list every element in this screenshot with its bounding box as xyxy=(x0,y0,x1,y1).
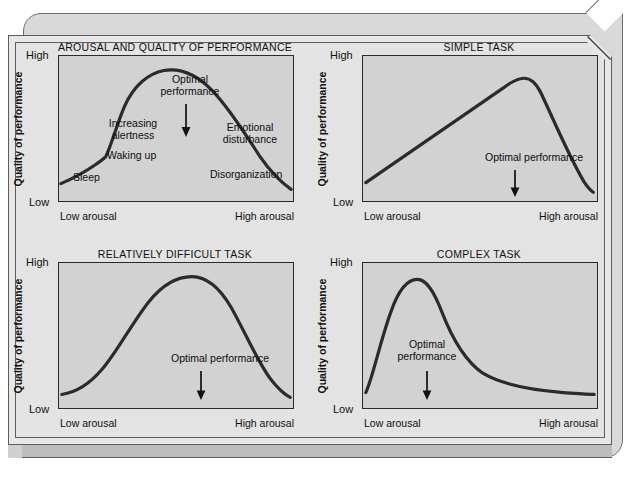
x-tick-high: High arousal xyxy=(539,417,598,429)
panel-title: RELATIVELY DIFFICULT TASK xyxy=(14,248,302,260)
plot-area: Optimal performance xyxy=(362,262,598,409)
arrow-down-icon xyxy=(420,371,434,401)
y-axis-label-text: Quality of performance xyxy=(316,278,328,393)
arrow-down-icon xyxy=(194,371,208,401)
x-tick-low: Low arousal xyxy=(60,210,117,222)
x-tick-high: High arousal xyxy=(235,417,294,429)
annotation-optimal-performance: Optimal performance xyxy=(155,353,285,365)
performance-curve xyxy=(366,279,594,394)
y-tick-high: High xyxy=(26,49,49,61)
y-tick-high: High xyxy=(330,49,353,61)
y-tick-low: Low xyxy=(333,196,353,208)
annotation-disorganization: Disorganization xyxy=(210,169,306,181)
y-tick-low: Low xyxy=(29,403,49,415)
y-tick-low: Low xyxy=(333,403,353,415)
x-tick-low: Low arousal xyxy=(60,417,117,429)
arrow-down-icon xyxy=(508,170,522,198)
card-back-corner-bevel xyxy=(586,0,623,31)
x-tick-low: Low arousal xyxy=(364,210,421,222)
annotation-optimal-performance: Optimal performance xyxy=(383,339,471,363)
curve-svg xyxy=(363,56,597,201)
figure-root: AROUSAL AND QUALITY OF PERFORMANCE Quali… xyxy=(0,0,634,481)
panel-title: AROUSAL AND QUALITY OF PERFORMANCE xyxy=(14,41,302,53)
performance-curve xyxy=(62,277,290,398)
plot-area: Optimal performance xyxy=(362,55,598,202)
panel-complex-task: COMPLEX TASK Quality of performance High… xyxy=(318,248,606,439)
y-tick-high: High xyxy=(330,256,353,268)
annotation-waking-up: Waking up xyxy=(107,150,191,162)
curve-svg xyxy=(363,263,597,408)
y-tick-high: High xyxy=(26,256,49,268)
sheet-bottom-edge xyxy=(18,445,612,458)
y-axis-label: Quality of performance xyxy=(314,55,330,202)
y-axis-label: Quality of performance xyxy=(10,262,26,409)
annotation-emotional-disturbance: Emotional disturbance xyxy=(207,122,293,146)
x-tick-high: High arousal xyxy=(235,210,294,222)
annotation-increasing-alertness: Increasing alertness xyxy=(93,118,173,142)
plot-area: Optimal performance Increasing alertness… xyxy=(58,55,294,202)
y-tick-low: Low xyxy=(29,196,49,208)
performance-curve xyxy=(366,78,593,192)
y-axis-label-text: Quality of performance xyxy=(12,278,24,393)
panel-simple-task: SIMPLE TASK Quality of performance High … xyxy=(318,41,606,232)
panel-title: COMPLEX TASK xyxy=(318,248,606,260)
panel-title: SIMPLE TASK xyxy=(318,41,606,53)
annotation-optimal-performance: Optimal performance xyxy=(469,152,599,164)
y-axis-label: Quality of performance xyxy=(314,262,330,409)
x-tick-high: High arousal xyxy=(539,210,598,222)
arrow-down-icon xyxy=(179,104,193,138)
y-axis-label-text: Quality of performance xyxy=(12,71,24,186)
plot-area: Optimal performance xyxy=(58,262,294,409)
y-axis-label: Quality of performance xyxy=(10,55,26,202)
curve-svg xyxy=(59,263,293,408)
panel-arousal-and-quality-of-performance: AROUSAL AND QUALITY OF PERFORMANCE Quali… xyxy=(14,41,302,232)
panel-relatively-difficult-task: RELATIVELY DIFFICULT TASK Quality of per… xyxy=(14,248,302,439)
sheet-left-edge xyxy=(8,445,22,458)
annotation-optimal-performance: Optimal performance xyxy=(147,74,233,98)
y-axis-label-text: Quality of performance xyxy=(316,71,328,186)
annotation-sleep: Sleep xyxy=(73,172,133,184)
x-tick-low: Low arousal xyxy=(364,417,421,429)
chart-grid: AROUSAL AND QUALITY OF PERFORMANCE Quali… xyxy=(14,41,606,439)
